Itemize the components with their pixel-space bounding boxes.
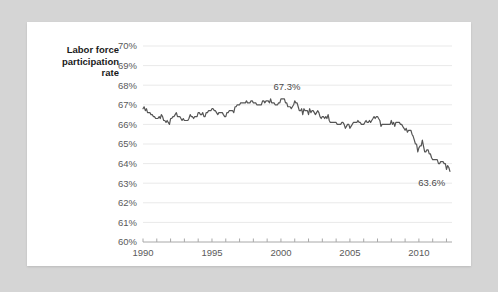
labor-force-participation-chart: 60%61%62%63%64%65%66%67%68%69%70%1990199… bbox=[0, 0, 498, 292]
y-axis-title-line: Labor force bbox=[67, 44, 119, 55]
x-axis-tick-label: 2005 bbox=[339, 247, 360, 258]
x-axis-tick-label: 2010 bbox=[408, 247, 429, 258]
y-axis-tick-label: 70% bbox=[118, 40, 138, 51]
y-axis-tick-label: 67% bbox=[118, 99, 138, 110]
y-axis-tick-label: 65% bbox=[118, 138, 138, 149]
y-axis-tick-label: 69% bbox=[118, 60, 138, 71]
data-point-annotation: 67.3% bbox=[273, 81, 300, 92]
y-axis-tick-label: 62% bbox=[118, 197, 138, 208]
x-axis-tick-label: 1990 bbox=[132, 247, 153, 258]
chart-svg: 60%61%62%63%64%65%66%67%68%69%70%1990199… bbox=[0, 0, 498, 292]
y-axis-tick-label: 68% bbox=[118, 80, 138, 91]
data-point-annotation: 63.6% bbox=[418, 177, 445, 188]
y-axis-title-line: rate bbox=[102, 67, 119, 78]
data-line-series bbox=[143, 99, 450, 172]
x-axis-tick-label: 2000 bbox=[270, 247, 291, 258]
y-axis-tick-label: 61% bbox=[118, 217, 138, 228]
y-axis-tick-label: 64% bbox=[118, 158, 138, 169]
y-axis-tick-label: 63% bbox=[118, 178, 138, 189]
y-axis-tick-label: 60% bbox=[118, 236, 138, 247]
y-axis-tick-label: 66% bbox=[118, 119, 138, 130]
x-axis-tick-label: 1995 bbox=[201, 247, 222, 258]
y-axis-title-line: participation bbox=[62, 56, 119, 67]
